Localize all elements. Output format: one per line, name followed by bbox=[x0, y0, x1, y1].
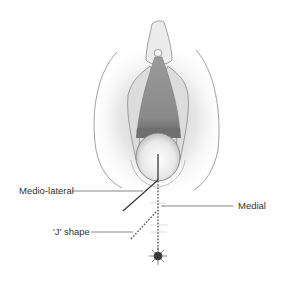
perineum-marks bbox=[150, 203, 168, 232]
label-medial: Medial bbox=[238, 201, 266, 211]
anus-icon bbox=[149, 247, 167, 265]
label-mediolateral: Medio-lateral bbox=[19, 186, 74, 196]
j-shape-incision bbox=[130, 212, 156, 240]
anatomy-illustration bbox=[0, 0, 283, 281]
episiotomy-diagram: Medio-lateral Medial 'J' shape bbox=[0, 0, 283, 281]
label-j-shape: 'J' shape bbox=[53, 227, 90, 237]
